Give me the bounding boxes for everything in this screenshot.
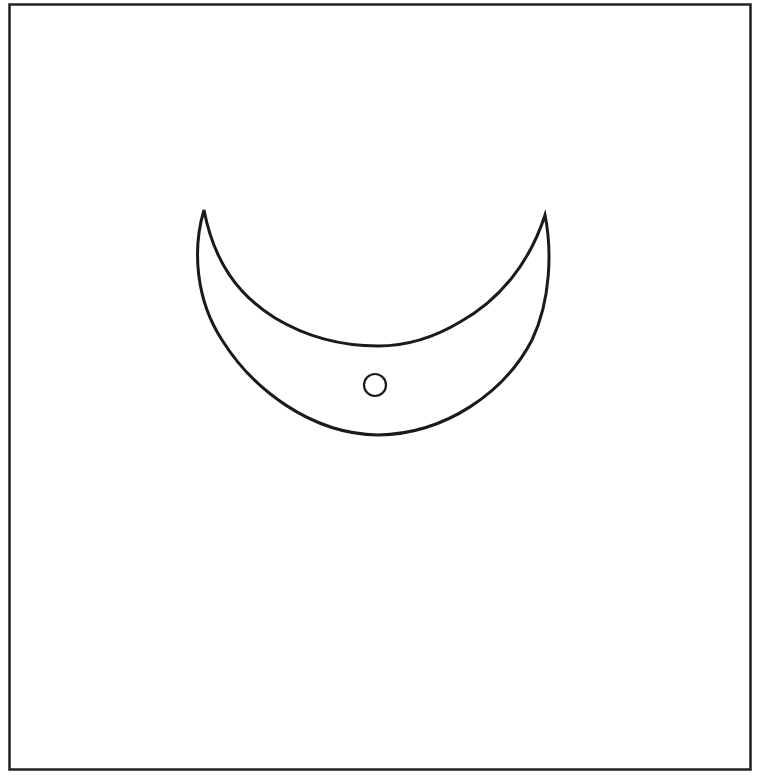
diagram-canvas [0,0,760,777]
small-circle-dot [364,374,386,396]
